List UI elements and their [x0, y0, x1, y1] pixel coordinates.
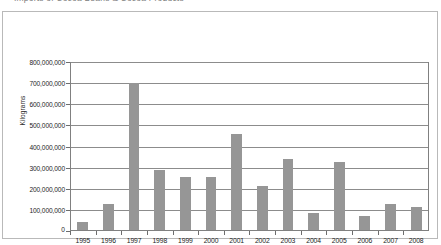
x-axis-category-label: 2003: [275, 237, 301, 245]
x-axis-category-label: 2005: [326, 237, 352, 245]
x-axis-tick-cell: [147, 231, 173, 236]
bar[interactable]: [411, 207, 422, 231]
x-axis-ticks: [70, 231, 429, 236]
y-axis-zero-label: 0: [43, 226, 65, 233]
x-axis-tick-mark: [301, 231, 302, 235]
x-axis-category-label: 1995: [70, 237, 96, 245]
bar-slot: [224, 62, 250, 231]
bar[interactable]: [257, 186, 268, 231]
figure-caption-strip: Imports of Cocoa Beans & Cocoa Products: [0, 0, 441, 11]
x-axis-tick-mark: [121, 231, 122, 235]
x-axis-tick-mark: [275, 231, 276, 235]
x-axis-tick-cell: [70, 231, 96, 236]
bar-slot: [70, 62, 96, 231]
bars-layer: [70, 62, 429, 231]
x-axis-tick-mark: [249, 231, 250, 235]
x-axis-tick-mark: [224, 231, 225, 235]
bar-slot: [275, 62, 301, 231]
x-axis-labels: 1995199619971998199920002001200220032004…: [70, 237, 429, 245]
bar[interactable]: [77, 222, 88, 232]
bar[interactable]: [206, 177, 217, 231]
x-axis-category-label: 1998: [147, 237, 173, 245]
x-axis-tick-mark: [147, 231, 148, 235]
x-axis-category-label: 2008: [403, 237, 429, 245]
x-axis-category-label: 2006: [352, 237, 378, 245]
y-axis-title: Kilograms: [19, 76, 26, 146]
y-axis-tick-label: 600,000,000: [29, 101, 65, 108]
x-axis-tick-mark: [403, 231, 404, 235]
x-axis-category-label: 2004: [301, 237, 327, 245]
y-axis-tick-label: 200,000,000: [29, 185, 65, 192]
x-axis-tick-cell: [403, 231, 429, 236]
bar[interactable]: [129, 83, 140, 231]
bar-slot: [352, 62, 378, 231]
bar[interactable]: [180, 177, 191, 231]
x-axis-tick-mark: [70, 231, 71, 235]
x-axis-tick-cell: [352, 231, 378, 236]
x-axis-tick-cell: [173, 231, 199, 236]
x-axis-tick-cell: [378, 231, 404, 236]
bar[interactable]: [103, 204, 114, 231]
bar-slot: [403, 62, 429, 231]
x-axis-tick-mark: [198, 231, 199, 235]
bar-slot: [326, 62, 352, 231]
bar[interactable]: [334, 162, 345, 231]
x-axis-tick-cell: [198, 231, 224, 236]
chart-plot-area: 100,000,000200,000,000300,000,000400,000…: [70, 62, 429, 231]
bar[interactable]: [231, 134, 242, 231]
bar[interactable]: [154, 170, 165, 231]
x-axis-tick-cell: [275, 231, 301, 236]
x-axis-category-label: 2001: [224, 237, 250, 245]
x-axis-category-label: 2000: [198, 237, 224, 245]
x-axis-category-label: 1999: [173, 237, 199, 245]
bar-slot: [249, 62, 275, 231]
x-axis-tick-cell: [326, 231, 352, 236]
bar-slot: [147, 62, 173, 231]
x-axis-tick-mark: [173, 231, 174, 235]
x-axis-category-label: 2002: [249, 237, 275, 245]
y-axis-tick-label: 100,000,000: [29, 206, 65, 213]
y-axis-tick-label: 700,000,000: [29, 80, 65, 87]
bar[interactable]: [308, 213, 319, 231]
x-axis-category-label: 1997: [121, 237, 147, 245]
x-axis-tick-cell: [96, 231, 122, 236]
x-axis-category-label: 2007: [378, 237, 404, 245]
x-axis-tick-mark: [352, 231, 353, 235]
figure-caption-text: Imports of Cocoa Beans & Cocoa Products: [14, 0, 184, 3]
x-axis-tick-cell: [121, 231, 147, 236]
bar-slot: [378, 62, 404, 231]
x-axis-tick-cell: [301, 231, 327, 236]
chart-figure-frame: Kilograms 100,000,000200,000,000300,000,…: [2, 11, 438, 239]
x-axis-category-label: 1996: [96, 237, 122, 245]
bar-slot: [198, 62, 224, 231]
y-axis-tick-label: 300,000,000: [29, 164, 65, 171]
x-axis-tick-cell: [249, 231, 275, 236]
bar-slot: [301, 62, 327, 231]
y-axis-tick-label: 800,000,000: [29, 59, 65, 66]
bar[interactable]: [385, 204, 396, 231]
bar-slot: [96, 62, 122, 231]
y-axis-tick-label: 400,000,000: [29, 143, 65, 150]
bar[interactable]: [283, 159, 294, 231]
x-axis-tick-mark: [326, 231, 327, 235]
y-axis-tick-label: 500,000,000: [29, 122, 65, 129]
bar-slot: [121, 62, 147, 231]
x-axis-tick-cell: [224, 231, 250, 236]
bar[interactable]: [359, 216, 370, 231]
x-axis-tick-mark: [96, 231, 97, 235]
bar-slot: [173, 62, 199, 231]
x-axis-tick-mark: [378, 231, 379, 235]
